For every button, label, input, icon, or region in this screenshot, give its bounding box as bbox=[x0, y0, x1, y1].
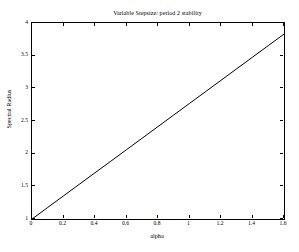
x-tick-label-2: 0.4 bbox=[82, 220, 106, 227]
x-tick-bottom-6 bbox=[220, 215, 221, 218]
figure-canvas: Variable Stepsize: period 2 stability 00… bbox=[0, 0, 299, 252]
x-tick-label-6: 1.2 bbox=[208, 220, 232, 227]
x-tick-label-3: 0.6 bbox=[114, 220, 138, 227]
y-tick-label-2: 2 bbox=[10, 149, 28, 156]
y-tick-left-2 bbox=[32, 153, 35, 154]
x-axis-label: alpha bbox=[31, 232, 283, 240]
y-axis-label: Spectral Radius bbox=[5, 79, 13, 139]
x-tick-top-5 bbox=[189, 23, 190, 26]
x-tick-top-3 bbox=[126, 23, 127, 26]
y-tick-right-5 bbox=[280, 55, 283, 56]
x-tick-top-2 bbox=[94, 23, 95, 26]
y-tick-left-6 bbox=[32, 22, 35, 23]
x-tick-bottom-5 bbox=[189, 215, 190, 218]
series-line-spectral-radius bbox=[32, 34, 284, 219]
x-tick-bottom-3 bbox=[126, 215, 127, 218]
x-tick-top-0 bbox=[31, 23, 32, 26]
x-tick-top-4 bbox=[157, 23, 158, 26]
y-tick-left-4 bbox=[32, 87, 35, 88]
y-tick-label-1: 1.5 bbox=[10, 182, 28, 189]
x-tick-top-8 bbox=[283, 23, 284, 26]
x-tick-bottom-2 bbox=[94, 215, 95, 218]
x-tick-label-4: 0.8 bbox=[145, 220, 169, 227]
x-tick-top-1 bbox=[63, 23, 64, 26]
y-tick-right-3 bbox=[280, 120, 283, 121]
y-tick-right-0 bbox=[280, 218, 283, 219]
y-tick-right-6 bbox=[280, 22, 283, 23]
plot-area bbox=[31, 22, 285, 220]
y-tick-left-0 bbox=[32, 218, 35, 219]
y-tick-right-1 bbox=[280, 185, 283, 186]
x-tick-bottom-4 bbox=[157, 215, 158, 218]
y-tick-left-5 bbox=[32, 55, 35, 56]
y-tick-label-5: 3.5 bbox=[10, 51, 28, 58]
x-tick-label-8: 1.6 bbox=[271, 220, 295, 227]
x-tick-top-6 bbox=[220, 23, 221, 26]
x-tick-label-5: 1 bbox=[177, 220, 201, 227]
y-tick-right-4 bbox=[280, 87, 283, 88]
data-line-svg bbox=[32, 23, 284, 219]
chart-title: Variable Stepsize: period 2 stability bbox=[31, 9, 284, 17]
x-tick-label-7: 1.4 bbox=[240, 220, 264, 227]
y-tick-label-6: 4 bbox=[10, 19, 28, 26]
x-tick-bottom-8 bbox=[283, 215, 284, 218]
y-tick-left-1 bbox=[32, 185, 35, 186]
y-tick-left-3 bbox=[32, 120, 35, 121]
x-tick-label-1: 0.2 bbox=[51, 220, 75, 227]
x-tick-top-7 bbox=[252, 23, 253, 26]
x-tick-bottom-1 bbox=[63, 215, 64, 218]
y-tick-label-0: 1 bbox=[10, 215, 28, 222]
x-tick-bottom-7 bbox=[252, 215, 253, 218]
y-tick-right-2 bbox=[280, 153, 283, 154]
